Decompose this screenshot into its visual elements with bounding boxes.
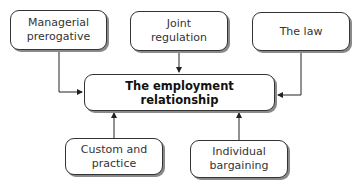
individual-bargaining-label: Individual bargaining	[204, 145, 274, 173]
managerial-prerogative-label: Managerial prerogative	[24, 16, 94, 44]
managerial-prerogative-box: Managerial prerogative	[10, 10, 107, 50]
custom-and-practice-box: Custom and practice	[65, 138, 163, 175]
joint-regulation-label: Joint regulation	[149, 17, 209, 45]
joint-regulation-box: Joint regulation	[130, 11, 228, 51]
the-law-box: The law	[252, 12, 350, 51]
custom-and-practice-label: Custom and practice	[79, 143, 149, 171]
the-law-label: The law	[280, 25, 323, 39]
employment-relationship-label: The employment relationship	[85, 79, 274, 107]
individual-bargaining-box: Individual bargaining	[190, 140, 288, 178]
employment-relationship-box: The employment relationship	[84, 74, 275, 111]
